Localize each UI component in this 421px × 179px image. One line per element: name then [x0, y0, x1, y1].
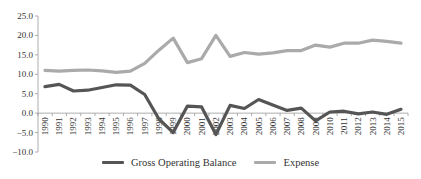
x-tick-label: 2005 — [254, 117, 264, 135]
x-tick-label: 2004 — [239, 117, 249, 135]
y-tick-label: 15.0 — [17, 50, 33, 60]
x-tick-label: 1991 — [54, 117, 64, 135]
x-tick-label: 1997 — [140, 117, 150, 135]
x-tick-label: 2006 — [268, 117, 278, 135]
y-tick-label: 10.0 — [17, 69, 33, 79]
y-tick-label: 5.0 — [22, 89, 34, 99]
x-tick-label: 1994 — [97, 117, 107, 135]
x-tick-label: 1995 — [111, 117, 121, 135]
x-tick-label: 2013 — [368, 117, 378, 135]
y-axis: 25.020.015.010.05.00.0−5.0−10.0 — [12, 11, 38, 157]
legend-item-expense: Expense — [254, 157, 319, 168]
y-tick-label: −5.0 — [17, 128, 34, 138]
line-chart: 25.020.015.010.05.00.0−5.0−10.0 19901991… — [0, 0, 421, 179]
legend-label-gross-operating-balance: Gross Operating Balance — [131, 157, 237, 168]
y-tick-label: 25.0 — [17, 11, 33, 21]
x-tick-label: 1993 — [83, 117, 93, 135]
x-tick-label: 1990 — [40, 117, 50, 135]
x-tick-label: 2008 — [296, 117, 306, 135]
y-tick-label: 20.0 — [17, 30, 33, 40]
legend: Gross Operating Balance Expense — [0, 157, 421, 168]
x-tick-label: 2015 — [396, 117, 406, 135]
x-tick-label: 2003 — [225, 117, 235, 135]
x-tick-label: 1992 — [68, 117, 78, 135]
legend-label-expense: Expense — [283, 157, 319, 168]
legend-swatch-expense — [254, 161, 276, 164]
x-tick-label: 2011 — [339, 117, 349, 135]
x-tick-label: 2010 — [325, 117, 335, 135]
legend-swatch-gross-operating-balance — [102, 161, 124, 164]
x-tick-label: 2001 — [197, 117, 207, 135]
x-tick-label: 2000 — [182, 117, 192, 135]
series-line-expense — [45, 35, 401, 72]
x-tick-label: 2012 — [353, 117, 363, 135]
y-tick-label: 0.0 — [22, 108, 34, 118]
x-tick-label: 2007 — [282, 117, 292, 135]
x-tick-label: 1996 — [125, 117, 135, 135]
x-tick-label: 2014 — [382, 117, 392, 135]
y-tick-label: −10.0 — [12, 147, 33, 157]
legend-item-gross-operating-balance: Gross Operating Balance — [102, 157, 237, 168]
